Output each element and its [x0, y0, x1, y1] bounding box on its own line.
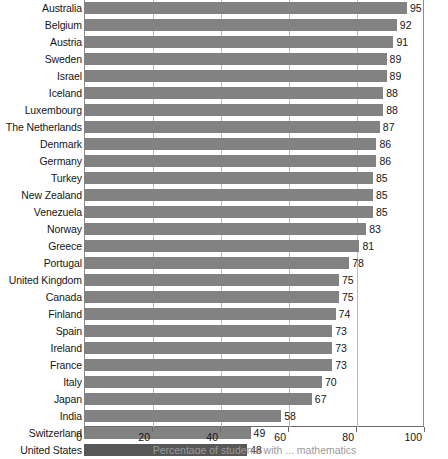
bar-value-label: 89: [387, 70, 402, 82]
bar-row: Luxembourg88: [0, 102, 448, 119]
bar: [84, 359, 332, 371]
bar-row: Austria91: [0, 34, 448, 51]
bar: [84, 291, 339, 303]
bar: [84, 138, 376, 150]
x-axis-tick: [356, 427, 357, 432]
bar: [84, 104, 383, 116]
category-label: Canada: [0, 290, 82, 304]
bar: [84, 36, 393, 48]
bar-row: Norway83: [0, 221, 448, 238]
bar-value-label: 86: [376, 155, 391, 167]
category-label: Luxembourg: [0, 103, 82, 117]
bar: [84, 393, 312, 405]
bar: [84, 240, 359, 252]
bar-row: Japan67: [0, 391, 448, 408]
bar: [84, 274, 339, 286]
bar-track: 95: [84, 2, 424, 14]
bar-row: Sweden89: [0, 51, 448, 68]
category-label: United Kingdom: [0, 273, 82, 287]
bar-track: 75: [84, 274, 424, 286]
x-axis-tick: [152, 427, 153, 432]
x-axis-title: Percentage of students with ... mathemat…: [84, 444, 425, 454]
bar-value-label: 73: [332, 342, 347, 354]
bar: [84, 87, 383, 99]
category-label: Sweden: [0, 52, 82, 66]
bar-row: Ireland73: [0, 340, 448, 357]
category-label: Norway: [0, 222, 82, 236]
category-label: Australia: [0, 1, 82, 15]
bar-track: 81: [84, 240, 424, 252]
bar-value-label: 86: [376, 138, 391, 150]
category-label: India: [0, 409, 82, 423]
category-label: Austria: [0, 35, 82, 49]
bar-track: 75: [84, 291, 424, 303]
bar-track: 88: [84, 87, 424, 99]
x-axis-tick-label: 80: [314, 431, 354, 443]
x-axis-tick: [288, 427, 289, 432]
category-label: Japan: [0, 392, 82, 406]
bar-row: Australia95: [0, 0, 448, 17]
bar: [84, 410, 281, 422]
bar: [84, 376, 322, 388]
bar-track: 91: [84, 36, 424, 48]
bar-value-label: 74: [336, 308, 351, 320]
bar-row: Portugal78: [0, 255, 448, 272]
bar-value-label: 67: [312, 393, 327, 405]
category-label: Greece: [0, 239, 82, 253]
x-axis-tick-label: 60: [246, 431, 286, 443]
bar: [84, 342, 332, 354]
bar-track: 74: [84, 308, 424, 320]
bar-row: Turkey85: [0, 170, 448, 187]
x-axis: 020406080100: [84, 427, 425, 443]
bar-row: Denmark86: [0, 136, 448, 153]
category-label: Spain: [0, 324, 82, 338]
bar-track: 86: [84, 138, 424, 150]
bar-track: 73: [84, 359, 424, 371]
category-label: Ireland: [0, 341, 82, 355]
bar-value-label: 88: [383, 87, 398, 99]
x-axis-tick-label: 0: [42, 431, 82, 443]
bar-row: Venezuela85: [0, 204, 448, 221]
x-axis-tick-label: 40: [178, 431, 218, 443]
bar-row: Spain73: [0, 323, 448, 340]
x-axis-tick: [424, 427, 425, 432]
bar-track: 85: [84, 206, 424, 218]
bar-row: Israel89: [0, 68, 448, 85]
bar-value-label: 85: [373, 206, 388, 218]
bar-value-label: 95: [407, 2, 422, 14]
bar-row: The Netherlands87: [0, 119, 448, 136]
bar-value-label: 73: [332, 325, 347, 337]
bar: [84, 325, 332, 337]
bar-track: 70: [84, 376, 424, 388]
bar-track: 73: [84, 325, 424, 337]
category-label: Venezuela: [0, 205, 82, 219]
category-label: Portugal: [0, 256, 82, 270]
bar-track: 73: [84, 342, 424, 354]
category-label: Iceland: [0, 86, 82, 100]
category-label: United States: [0, 443, 82, 457]
bar-track: 86: [84, 155, 424, 167]
bar-row: Germany86: [0, 153, 448, 170]
bar: [84, 19, 397, 31]
bar-value-label: 70: [322, 376, 337, 388]
bar-value-label: 87: [380, 121, 395, 133]
x-axis-tick: [220, 427, 221, 432]
bar-value-label: 89: [387, 53, 402, 65]
category-label: Belgium: [0, 18, 82, 32]
bar-track: 58: [84, 410, 424, 422]
bar-track: 67: [84, 393, 424, 405]
bar-value-label: 75: [339, 274, 354, 286]
bar-value-label: 73: [332, 359, 347, 371]
bar-track: 78: [84, 257, 424, 269]
bar: [84, 121, 380, 133]
bar: [84, 223, 366, 235]
bar-track: 89: [84, 70, 424, 82]
bar: [84, 257, 349, 269]
category-label: Italy: [0, 375, 82, 389]
bar-track: 92: [84, 19, 424, 31]
category-label: New Zealand: [0, 188, 82, 202]
bar-value-label: 85: [373, 189, 388, 201]
bar: [84, 189, 373, 201]
bar: [84, 308, 336, 320]
category-label: Israel: [0, 69, 82, 83]
